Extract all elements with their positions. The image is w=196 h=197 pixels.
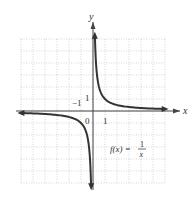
curve-branch-positive xyxy=(95,35,165,109)
y-tick-1-label: 1 xyxy=(85,93,90,103)
function-label-num: 1 xyxy=(140,140,144,149)
y-axis-label: y xyxy=(88,11,94,22)
x-tick-1-label: 1 xyxy=(103,116,108,126)
x-axis-arrow-icon xyxy=(173,109,180,114)
y-axis-arrow-icon xyxy=(91,22,96,29)
x-axis-label: x xyxy=(182,105,188,116)
function-label-lhs: f(x) = xyxy=(110,144,131,154)
neg-one-label: −1 xyxy=(72,98,82,108)
origin-label: 0 xyxy=(85,116,90,126)
graph: x y 0 1 1 −1 f(x) = 1 x xyxy=(0,0,196,197)
function-label-den: x xyxy=(139,150,144,159)
curve-branch-negative xyxy=(21,113,91,187)
